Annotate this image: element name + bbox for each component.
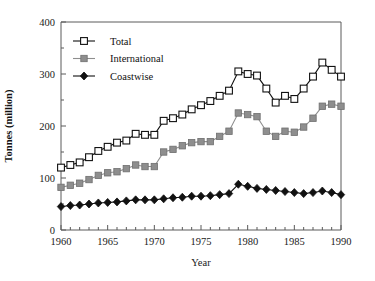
data-point — [272, 186, 279, 194]
y-tick-label: 0 — [50, 225, 55, 236]
data-point — [263, 85, 270, 92]
data-point — [132, 130, 139, 137]
data-point — [104, 170, 110, 176]
data-point — [142, 163, 148, 169]
x-tick-label: 1965 — [97, 236, 118, 247]
y-tick-label: 300 — [39, 69, 55, 80]
data-point — [272, 99, 279, 106]
data-point — [151, 131, 158, 138]
y-tick-label: 400 — [39, 17, 55, 28]
data-point — [337, 191, 344, 199]
data-point — [179, 111, 186, 118]
data-point — [254, 113, 260, 119]
data-point — [207, 138, 213, 144]
data-point — [309, 189, 316, 197]
data-point — [67, 182, 73, 188]
data-point — [104, 198, 111, 206]
legend-item-total: Total — [73, 36, 132, 47]
x-tick-label: 1985 — [284, 236, 305, 247]
data-point — [179, 193, 186, 201]
data-point — [95, 199, 102, 207]
data-point — [197, 192, 204, 200]
data-point — [160, 195, 167, 203]
data-point — [198, 102, 205, 109]
x-tick-label: 1990 — [331, 236, 352, 247]
data-point — [207, 192, 214, 200]
data-point — [58, 184, 64, 190]
data-point — [235, 68, 242, 75]
chart-figure: 0100200300400 19601965197019751980198519… — [0, 0, 375, 281]
data-point — [300, 190, 307, 198]
data-point — [291, 129, 297, 135]
data-point — [170, 115, 177, 122]
x-axis-ticks: 1960196519701975198019851990 — [51, 225, 352, 247]
data-point — [319, 103, 325, 109]
data-point — [244, 182, 251, 190]
data-point — [142, 131, 149, 138]
legend-label: International — [110, 53, 164, 64]
data-point — [253, 184, 260, 192]
data-point — [319, 187, 326, 195]
data-point — [291, 96, 298, 103]
data-point — [310, 73, 317, 80]
data-point — [132, 162, 138, 168]
data-point — [95, 148, 102, 155]
data-point — [95, 172, 101, 178]
data-point — [244, 111, 250, 117]
data-point — [76, 201, 83, 209]
data-point — [244, 71, 251, 78]
series-line — [61, 104, 341, 187]
data-point — [319, 59, 326, 66]
data-series-layer — [57, 59, 344, 210]
data-point — [151, 163, 157, 169]
data-point — [328, 101, 334, 107]
data-point — [114, 169, 120, 175]
data-point — [207, 98, 214, 105]
y-axis-ticks: 0100200300400 — [39, 17, 66, 236]
data-point — [338, 103, 344, 109]
data-point — [263, 185, 270, 193]
legend-marker — [80, 72, 87, 80]
data-point — [169, 194, 176, 202]
data-point — [216, 92, 223, 99]
data-point — [151, 196, 158, 204]
legend-label: Coastwise — [110, 71, 154, 82]
data-point — [188, 192, 195, 200]
data-point — [291, 189, 298, 197]
data-point — [86, 154, 93, 161]
data-point — [188, 139, 194, 145]
data-point — [58, 164, 65, 171]
y-axis-title: Tonnes (million) — [3, 89, 15, 162]
data-point — [254, 72, 261, 79]
legend-item-coastwise: Coastwise — [73, 71, 154, 82]
data-point — [328, 189, 335, 197]
series-total — [58, 59, 345, 171]
data-point — [67, 162, 74, 169]
legend-item-international: International — [73, 53, 164, 64]
data-point — [123, 165, 129, 171]
data-point — [226, 128, 232, 134]
data-point — [123, 137, 130, 144]
data-point — [310, 115, 316, 121]
data-point — [85, 200, 92, 208]
x-tick-label: 1975 — [191, 236, 212, 247]
series-coastwise — [57, 180, 344, 210]
legend-label: Total — [110, 36, 132, 47]
data-point — [132, 196, 139, 204]
data-point — [160, 149, 166, 155]
data-point — [113, 198, 120, 206]
data-point — [282, 128, 288, 134]
data-point — [263, 128, 269, 134]
data-point — [300, 85, 307, 92]
data-point — [226, 87, 233, 94]
data-point — [160, 117, 167, 124]
data-point — [272, 133, 278, 139]
series-international — [58, 101, 344, 191]
data-point — [76, 180, 82, 186]
data-point — [114, 139, 121, 146]
data-point — [179, 143, 185, 149]
y-tick-label: 100 — [39, 173, 55, 184]
data-point — [328, 66, 335, 73]
data-point — [76, 159, 83, 166]
x-tick-label: 1980 — [237, 236, 258, 247]
